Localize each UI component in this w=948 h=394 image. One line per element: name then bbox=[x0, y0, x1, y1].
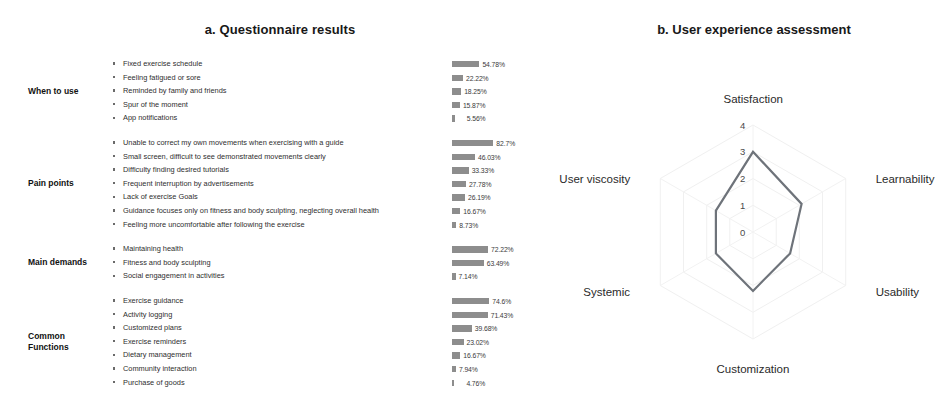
bar bbox=[452, 115, 455, 121]
bar-value-label: 7.94% bbox=[459, 363, 478, 377]
bullet-icon bbox=[113, 354, 115, 356]
bar-value-label: 16.67% bbox=[463, 205, 485, 219]
bar-value-label: 23.02% bbox=[467, 336, 489, 350]
list-item: Reminded by family and friends bbox=[112, 84, 452, 98]
list-item: Social engagement in activities bbox=[112, 269, 452, 283]
bullet-icon bbox=[113, 182, 115, 184]
radar-tick-label: 1 bbox=[740, 200, 745, 211]
bar bbox=[452, 140, 493, 146]
bullet-icon bbox=[113, 223, 115, 225]
bar-row: 71.43% bbox=[452, 308, 560, 322]
bar-row: 46.03% bbox=[452, 150, 560, 164]
list-item: Feeling more uncomfortable after followi… bbox=[112, 218, 452, 232]
radar-axis-label: Systemic bbox=[583, 286, 630, 298]
group-bars: 82.7%46.03%33.33%27.78%26.19%16.67%8.73% bbox=[452, 136, 560, 231]
bar bbox=[452, 273, 456, 279]
bullet-icon bbox=[113, 196, 115, 198]
bar bbox=[452, 260, 484, 266]
list-item-label: Dietary management bbox=[123, 350, 192, 359]
bar bbox=[452, 312, 488, 318]
radar-svg bbox=[560, 0, 948, 394]
group-items: Exercise guidanceActivity loggingCustomi… bbox=[112, 294, 452, 389]
bar-row: 4.76% bbox=[452, 376, 560, 390]
list-item: Fitness and body sculpting bbox=[112, 256, 452, 270]
bullet-icon bbox=[113, 89, 115, 91]
bullet-icon bbox=[113, 381, 115, 383]
bullet-icon bbox=[113, 367, 115, 369]
bar-value-label: 46.03% bbox=[478, 151, 500, 165]
group-items: Unable to correct my own movements when … bbox=[112, 136, 452, 231]
list-item: Lack of exercise Goals bbox=[112, 190, 452, 204]
list-item-label: Fitness and body sculpting bbox=[123, 258, 211, 267]
radar-tick-label: 2 bbox=[740, 173, 745, 184]
bar-row: 26.19% bbox=[452, 190, 560, 204]
list-item: Difficulty finding desired tutorials bbox=[112, 163, 452, 177]
bullet-icon bbox=[113, 247, 115, 249]
bullet-icon bbox=[113, 76, 115, 78]
bar-row: 15.87% bbox=[452, 98, 560, 112]
bar-row: 5.56% bbox=[452, 111, 560, 125]
bar-row: 39.68% bbox=[452, 321, 560, 335]
list-item-label: Small screen, difficult to see demonstra… bbox=[123, 152, 326, 161]
list-item-label: Community interaction bbox=[123, 364, 197, 373]
bar-row: 72.22% bbox=[452, 242, 560, 256]
list-item-label: Unable to correct my own movements when … bbox=[123, 138, 344, 147]
list-item-label: Guidance focuses only on fitness and bod… bbox=[123, 206, 379, 215]
radar-axis-label: Usability bbox=[876, 286, 919, 298]
group-bars: 72.22%63.49%7.14% bbox=[452, 242, 560, 283]
list-item: Feeling fatigued or sore bbox=[112, 71, 452, 85]
bar-value-label: 39.68% bbox=[475, 322, 497, 336]
list-item: Purchase of goods bbox=[112, 376, 452, 390]
radar-tick-label: 0 bbox=[740, 227, 745, 238]
list-item-label: Feeling more uncomfortable after followi… bbox=[123, 220, 305, 229]
group-label: Common Functions bbox=[28, 331, 98, 353]
bar-value-label: 8.73% bbox=[459, 219, 478, 233]
bar-row: 23.02% bbox=[452, 335, 560, 349]
list-item-label: Reminded by family and friends bbox=[123, 86, 227, 95]
question-group: Common FunctionsExercise guidanceActivit… bbox=[0, 294, 560, 389]
bar bbox=[452, 380, 454, 386]
bar bbox=[452, 298, 489, 304]
bar bbox=[452, 61, 479, 67]
radar-axis-label: User viscosity bbox=[559, 173, 630, 185]
list-item: Fixed exercise schedule bbox=[112, 57, 452, 71]
bar-value-label: 26.19% bbox=[468, 191, 490, 205]
bar-row: 8.73% bbox=[452, 218, 560, 232]
list-item: Small screen, difficult to see demonstra… bbox=[112, 150, 452, 164]
radar-tick-label: 4 bbox=[740, 120, 745, 131]
list-item-label: Difficulty finding desired tutorials bbox=[123, 165, 229, 174]
list-item-label: Social engagement in activities bbox=[123, 271, 224, 280]
list-item: Guidance focuses only on fitness and bod… bbox=[112, 204, 452, 218]
list-item-label: Lack of exercise Goals bbox=[123, 192, 198, 201]
bar bbox=[452, 102, 460, 108]
bar-row: 63.49% bbox=[452, 256, 560, 270]
list-item-label: Maintaining health bbox=[123, 244, 183, 253]
bar-value-label: 22.22% bbox=[466, 72, 488, 86]
bar-value-label: 4.76% bbox=[466, 377, 485, 391]
bar-value-label: 74.6% bbox=[492, 295, 511, 309]
bar bbox=[452, 366, 456, 372]
bar-value-label: 71.43% bbox=[491, 309, 513, 323]
bar-value-label: 27.78% bbox=[469, 178, 491, 192]
bar-row: 7.14% bbox=[452, 269, 560, 283]
list-item: Dietary management bbox=[112, 348, 452, 362]
list-item: App notifications bbox=[112, 111, 452, 125]
radar-chart: SatisfactionLearnabilityUsabilityCustomi… bbox=[560, 0, 948, 394]
bullet-icon bbox=[113, 275, 115, 277]
list-item: Frequent interruption by advertisements bbox=[112, 177, 452, 191]
bar bbox=[452, 75, 463, 81]
list-item-label: Activity logging bbox=[123, 310, 172, 319]
bar-value-label: 72.22% bbox=[491, 243, 513, 257]
bullet-icon bbox=[113, 155, 115, 157]
group-items: Fixed exercise scheduleFeeling fatigued … bbox=[112, 57, 452, 125]
list-item-label: App notifications bbox=[123, 113, 177, 122]
bullet-icon bbox=[113, 299, 115, 301]
list-item-label: Exercise guidance bbox=[123, 296, 183, 305]
bullet-icon bbox=[113, 326, 115, 328]
bar bbox=[452, 88, 461, 94]
bar-row: 18.25% bbox=[452, 84, 560, 98]
list-item: Exercise reminders bbox=[112, 335, 452, 349]
bar bbox=[452, 325, 472, 331]
bullet-icon bbox=[113, 168, 115, 170]
bar-row: 22.22% bbox=[452, 71, 560, 85]
